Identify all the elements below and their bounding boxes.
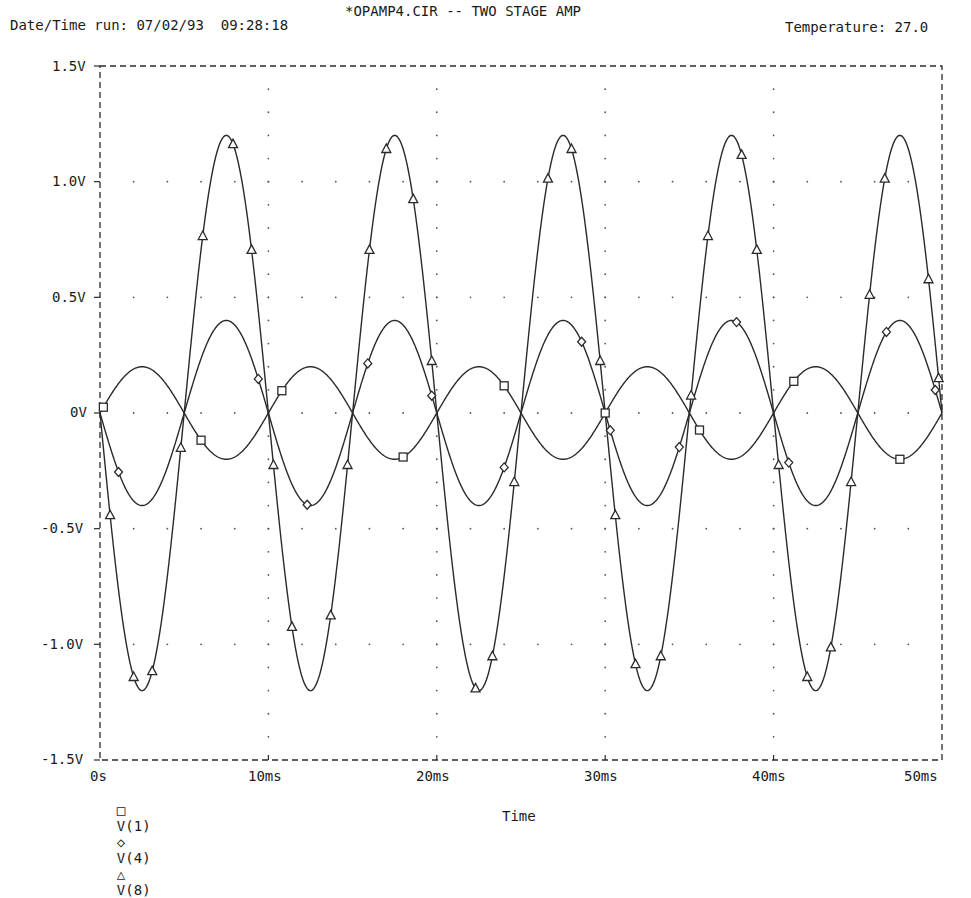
triangle-marker-icon [567,144,576,153]
triangle-marker-icon [129,672,138,681]
triangle-marker-icon [269,460,278,469]
triangle-marker-icon [631,659,640,668]
diamond-marker-icon: ◇ [117,834,125,850]
x-tick-label: 30ms [584,768,618,784]
square-marker-icon [197,436,205,444]
diamond-marker-icon [254,374,262,383]
y-tick-label: 0.5V [52,289,86,305]
triangle-marker-icon [176,443,185,452]
triangle-marker-icon [229,139,238,148]
triangle-marker-icon [596,356,605,365]
square-marker-icon [278,387,286,395]
diamond-marker-icon [364,359,372,368]
triangle-marker-icon [106,510,115,519]
triangle-marker-icon [287,622,296,631]
square-marker-icon [500,382,508,390]
triangle-marker-icon [543,174,552,183]
diamond-marker-icon [500,463,508,472]
legend-label: V(1) [117,818,151,834]
y-tick-label: 1.0V [52,173,86,189]
square-marker-icon [790,377,798,385]
triangle-marker-icon [510,477,519,486]
diamond-marker-icon [303,500,311,509]
x-tick-label: 20ms [416,768,450,784]
diamond-marker-icon [675,443,683,452]
diamond-marker-icon [578,337,586,346]
x-tick-label: 10ms [248,768,282,784]
diamond-marker-icon [931,385,939,394]
legend-label: V(4) [117,850,151,866]
triangle-marker-icon [365,245,374,254]
triangle-marker-icon [198,231,207,240]
triangle-marker-icon [488,651,497,660]
series-line-V(8) [100,135,942,690]
y-tick-label: -0.5V [41,520,83,536]
triangle-marker-icon [847,477,856,486]
x-tick-label: 50ms [904,768,938,784]
square-marker-icon [696,426,704,434]
triangle-marker-icon [803,672,812,681]
triangle-marker-icon [382,144,391,153]
triangle-marker-icon [471,683,480,692]
triangle-marker-icon [703,231,712,240]
y-tick-label: 1.5V [52,58,86,74]
triangle-marker-icon [865,290,874,299]
y-tick-label: 0V [70,404,87,420]
triangle-marker-icon [343,460,352,469]
x-tick-label: 40ms [752,768,786,784]
legend: □ V(1) ◇ V(4) △ V(8) [100,786,151,898]
legend-label: V(8) [117,882,151,898]
square-marker-icon [896,455,904,463]
triangle-marker-icon [826,642,835,651]
y-tick-label: -1.0V [41,636,83,652]
triangle-marker-icon [752,245,761,254]
triangle-marker-icon [148,666,157,675]
square-marker-icon: □ [117,802,125,818]
triangle-marker-icon [656,651,665,660]
square-marker-icon [99,403,107,411]
diamond-marker-icon [115,467,123,476]
square-marker-icon [399,453,407,461]
triangle-marker-icon [611,510,620,519]
triangle-marker-icon [774,460,783,469]
diamond-marker-icon [785,458,793,467]
triangle-marker-icon [924,274,933,283]
triangle-marker-icon [326,610,335,619]
triangle-marker-icon [427,356,436,365]
x-tick-label: 0s [90,768,107,784]
triangle-marker-icon [409,194,418,203]
x-axis-label: Time [502,808,536,824]
square-marker-icon [601,409,609,417]
triangle-marker-icon [880,174,889,183]
triangle-marker-icon: △ [117,866,125,882]
y-tick-label: -1.5V [41,751,83,767]
triangle-marker-icon [247,245,256,254]
triangle-marker-icon [737,150,746,159]
